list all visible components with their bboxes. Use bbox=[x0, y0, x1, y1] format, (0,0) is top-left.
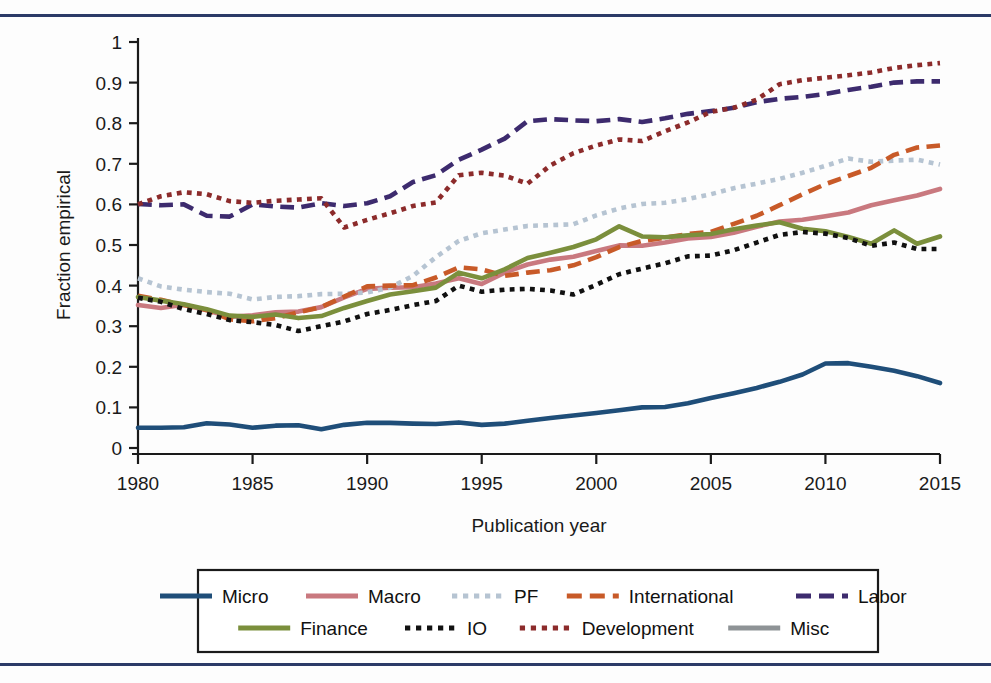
figure-container: 00.10.20.30.40.50.60.70.80.91 1980198519… bbox=[0, 0, 991, 683]
legend-label-finance: Finance bbox=[300, 618, 368, 639]
y-tick-label: 0.6 bbox=[96, 194, 122, 215]
axis-lines bbox=[132, 38, 940, 454]
x-axis-ticks: 19801985199019952000200520102015 bbox=[117, 454, 961, 494]
legend-label-pf: PF bbox=[514, 586, 538, 607]
y-axis-ticks: 00.10.20.30.40.50.60.70.80.91 bbox=[96, 32, 138, 459]
y-tick-label: 1 bbox=[111, 32, 122, 53]
top-divider-rule bbox=[0, 14, 991, 17]
series-line-international bbox=[138, 146, 940, 322]
x-axis-label: Publication year bbox=[471, 515, 607, 536]
y-axis-label: Fraction empirical bbox=[53, 170, 74, 320]
x-tick-label: 2005 bbox=[690, 473, 732, 494]
y-tick-label: 0.7 bbox=[96, 154, 122, 175]
y-tick-label: 0.8 bbox=[96, 113, 122, 134]
legend-label-development: Development bbox=[582, 618, 695, 639]
legend-label-micro: Micro bbox=[222, 586, 268, 607]
legend-label-misc: Misc bbox=[790, 618, 829, 639]
x-tick-label: 1995 bbox=[461, 473, 503, 494]
x-tick-label: 1980 bbox=[117, 473, 159, 494]
x-tick-label: 2015 bbox=[919, 473, 961, 494]
y-tick-label: 0.3 bbox=[96, 316, 122, 337]
x-tick-label: 1985 bbox=[231, 473, 273, 494]
legend-label-macro: Macro bbox=[368, 586, 421, 607]
y-tick-label: 0.9 bbox=[96, 73, 122, 94]
chart-legend: MicroMacroPFInternationalLaborFinanceIOD… bbox=[160, 570, 907, 652]
y-tick-label: 0.4 bbox=[96, 276, 123, 297]
series-lines bbox=[138, 63, 940, 429]
y-tick-label: 0.1 bbox=[96, 397, 122, 418]
line-chart: 00.10.20.30.40.50.60.70.80.91 1980198519… bbox=[0, 18, 991, 658]
x-tick-label: 1990 bbox=[346, 473, 388, 494]
x-tick-label: 2000 bbox=[575, 473, 617, 494]
legend-label-io: IO bbox=[467, 618, 487, 639]
series-line-development bbox=[138, 63, 940, 227]
y-tick-label: 0.5 bbox=[96, 235, 122, 256]
series-line-micro bbox=[138, 363, 940, 429]
legend-label-international: International bbox=[629, 586, 734, 607]
y-tick-label: 0 bbox=[111, 438, 122, 459]
legend-box bbox=[198, 570, 878, 652]
bottom-divider-rule bbox=[0, 663, 991, 666]
y-tick-label: 0.2 bbox=[96, 357, 122, 378]
legend-label-labor: Labor bbox=[858, 586, 907, 607]
x-tick-label: 2010 bbox=[804, 473, 846, 494]
series-line-labor bbox=[138, 81, 940, 216]
